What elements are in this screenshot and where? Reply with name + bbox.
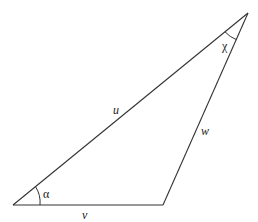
- side-w: [163, 13, 248, 205]
- side-label-v: v: [82, 208, 88, 222]
- angle-label-chi: χ: [221, 39, 228, 53]
- triangle-diagram: α χ u v w: [0, 0, 258, 222]
- angle-arc-alpha: [36, 187, 41, 205]
- side-label-w: w: [201, 124, 209, 138]
- side-label-u: u: [113, 103, 119, 117]
- angle-label-alpha: α: [43, 187, 50, 201]
- side-u: [13, 13, 248, 205]
